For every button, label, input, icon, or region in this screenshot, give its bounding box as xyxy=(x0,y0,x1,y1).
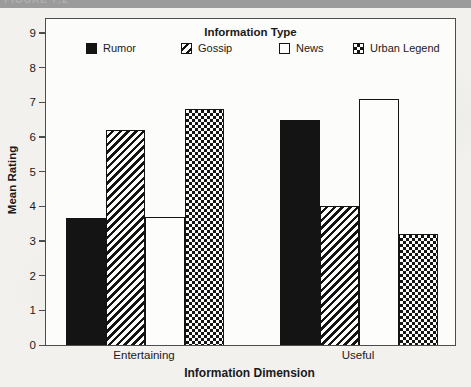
y-tick-label: 0 xyxy=(10,338,36,352)
bar-useful-gossip xyxy=(320,206,360,345)
bar-useful-news xyxy=(359,99,399,345)
x-category-label-useful: Useful xyxy=(278,349,438,361)
figure-label: FIGURE 7.2 xyxy=(4,0,471,5)
y-tick-label: 8 xyxy=(10,61,36,75)
bar-entertaining-rumor xyxy=(66,218,106,345)
bar-useful-rumor xyxy=(280,120,320,345)
bar-useful-urban-legend xyxy=(399,234,439,345)
y-tick-label: 2 xyxy=(10,269,36,283)
legend-item-label: Urban Legend xyxy=(370,42,440,54)
y-tick-label: 7 xyxy=(10,95,36,109)
legend-item-label: Rumor xyxy=(103,42,136,54)
y-tick-label: 4 xyxy=(10,199,36,213)
bar-entertaining-news xyxy=(145,217,185,345)
white-swatch-icon xyxy=(279,43,290,54)
legend-item-rumor: Rumor xyxy=(86,42,136,54)
bar-entertaining-urban-legend xyxy=(185,109,225,345)
y-tick-label: 3 xyxy=(10,234,36,248)
figure-header-band: FIGURE 7.2 xyxy=(0,0,471,8)
legend-item-news: News xyxy=(279,42,324,54)
legend-item-label: News xyxy=(296,42,324,54)
y-tick-label: 9 xyxy=(10,26,36,40)
y-tick-label: 6 xyxy=(10,130,36,144)
plot-area: Information Type RumorGossipNewsUrban Le… xyxy=(45,18,456,346)
legend-item-gossip: Gossip xyxy=(181,42,232,54)
y-tick-label: 1 xyxy=(10,303,36,317)
legend-title: Information Type xyxy=(46,26,455,38)
stripes-swatch-icon xyxy=(181,43,192,54)
bar-entertaining-gossip xyxy=(106,130,146,345)
x-category-label-entertaining: Entertaining xyxy=(64,349,224,361)
y-tick-label: 5 xyxy=(10,165,36,179)
checker-swatch-icon xyxy=(353,43,364,54)
legend-item-urban-legend: Urban Legend xyxy=(353,42,440,54)
x-axis-title: Information Dimension xyxy=(45,366,454,380)
solid-swatch-icon xyxy=(86,43,97,54)
legend-item-label: Gossip xyxy=(198,42,232,54)
scanned-figure-page: FIGURE 7.2 Mean Rating 0123456789 Inform… xyxy=(0,0,471,387)
